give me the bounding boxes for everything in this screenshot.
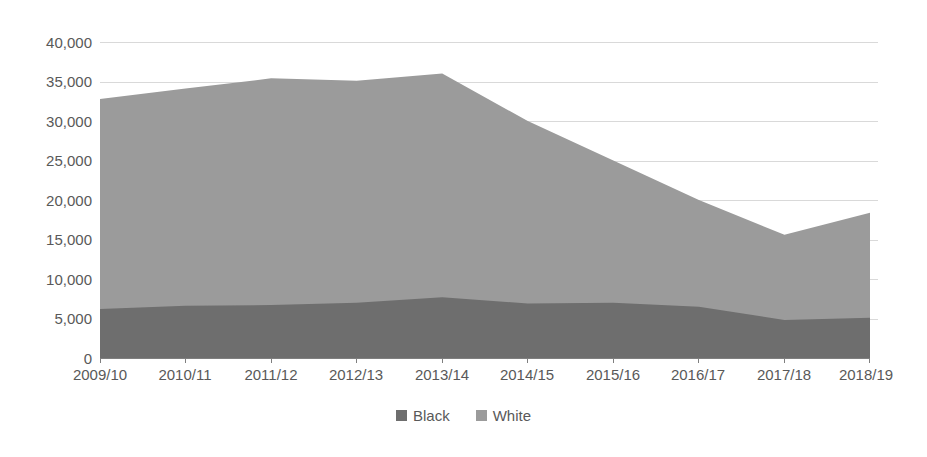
x-tick-6 (613, 358, 614, 363)
x-tick-5 (527, 358, 528, 363)
x-tick-0 (100, 358, 101, 363)
chart-legend: Black White (0, 408, 927, 423)
x-tick-2 (271, 358, 272, 363)
x-axis-labels: 2009/10 2010/11 2011/12 2012/13 2013/14 … (0, 366, 927, 390)
x-tick-9 (869, 358, 870, 363)
x-tick-4 (442, 358, 443, 363)
legend-item-white[interactable]: White (476, 408, 531, 423)
y-tick-label-0: 0 (0, 351, 92, 366)
y-tick-label-35000: 35,000 (0, 74, 92, 89)
legend-item-black[interactable]: Black (396, 408, 450, 423)
series-svg (100, 42, 870, 358)
y-tick-label-30000: 30,000 (0, 114, 92, 129)
y-tick-label-10000: 10,000 (0, 272, 92, 287)
y-tick-label-15000: 15,000 (0, 232, 92, 247)
y-tick-label-5000: 5,000 (0, 311, 92, 326)
legend-label-white: White (493, 408, 531, 423)
x-axis-line (100, 358, 870, 359)
legend-swatch-white-icon (476, 410, 487, 421)
plot-area (100, 42, 870, 358)
legend-label-black: Black (413, 408, 450, 423)
x-tick-label-2018-19: 2018/19 (811, 366, 921, 384)
x-tick-7 (698, 358, 699, 363)
x-tick-1 (185, 358, 186, 363)
x-tick-8 (784, 358, 785, 363)
x-tick-3 (356, 358, 357, 363)
y-tick-label-20000: 20,000 (0, 193, 92, 208)
y-tick-label-40000: 40,000 (0, 35, 92, 50)
y-tick-label-25000: 25,000 (0, 153, 92, 168)
stacked-area-chart: 40,000 35,000 30,000 25,000 20,000 15,00… (0, 0, 927, 457)
legend-swatch-black-icon (396, 410, 407, 421)
